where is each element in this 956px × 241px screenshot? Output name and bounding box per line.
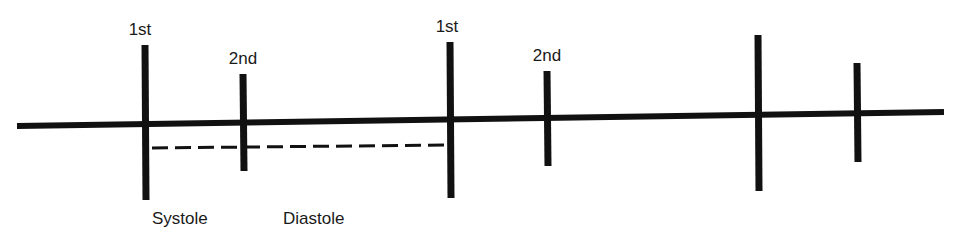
systole-duration-dashed-line [152, 145, 447, 148]
heart-sound-label-3: 1st [436, 17, 459, 36]
diastole-label: Diastole [283, 209, 344, 228]
heart-sound-marker-1 [145, 45, 146, 200]
heart-sound-labels: 1st2nd1st2nd [129, 17, 562, 68]
heart-sound-marker-4 [547, 71, 548, 166]
heart-sound-label-1: 1st [129, 20, 152, 39]
systole-label: Systole [152, 209, 208, 228]
heart-sound-marker-6 [857, 63, 858, 162]
heart-sound-marker-2 [243, 74, 244, 171]
heart-sound-marker-5 [758, 35, 759, 191]
heart-sound-marker-3 [450, 42, 451, 198]
heart-sound-label-4: 2nd [533, 46, 561, 65]
heart-sound-label-2: 2nd [229, 49, 257, 68]
time-axis-baseline [17, 112, 944, 126]
heart-sound-timeline-diagram: 1st2nd1st2nd Systole Diastole [0, 0, 956, 241]
